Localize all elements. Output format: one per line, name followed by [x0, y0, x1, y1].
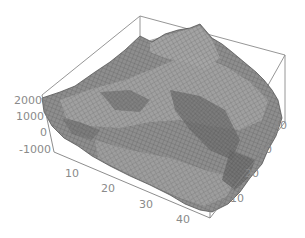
- z-tick-label: 0: [5, 127, 47, 138]
- z-tick-label: -1000: [9, 144, 51, 155]
- y-tick-label: 30: [258, 144, 272, 155]
- y-tick-label: 40: [273, 120, 287, 131]
- y-tick-label: 10: [230, 193, 244, 204]
- x-tick-label: 40: [176, 214, 190, 225]
- z-tick-label: 1000: [2, 111, 44, 122]
- x-tick-label: 10: [65, 168, 79, 179]
- z-tick-label: 2000: [0, 95, 42, 106]
- x-tick-label: 20: [101, 183, 115, 194]
- x-tick-label: 30: [139, 199, 153, 210]
- terrain-surface: [42, 24, 282, 212]
- y-tick-label: 20: [245, 168, 259, 179]
